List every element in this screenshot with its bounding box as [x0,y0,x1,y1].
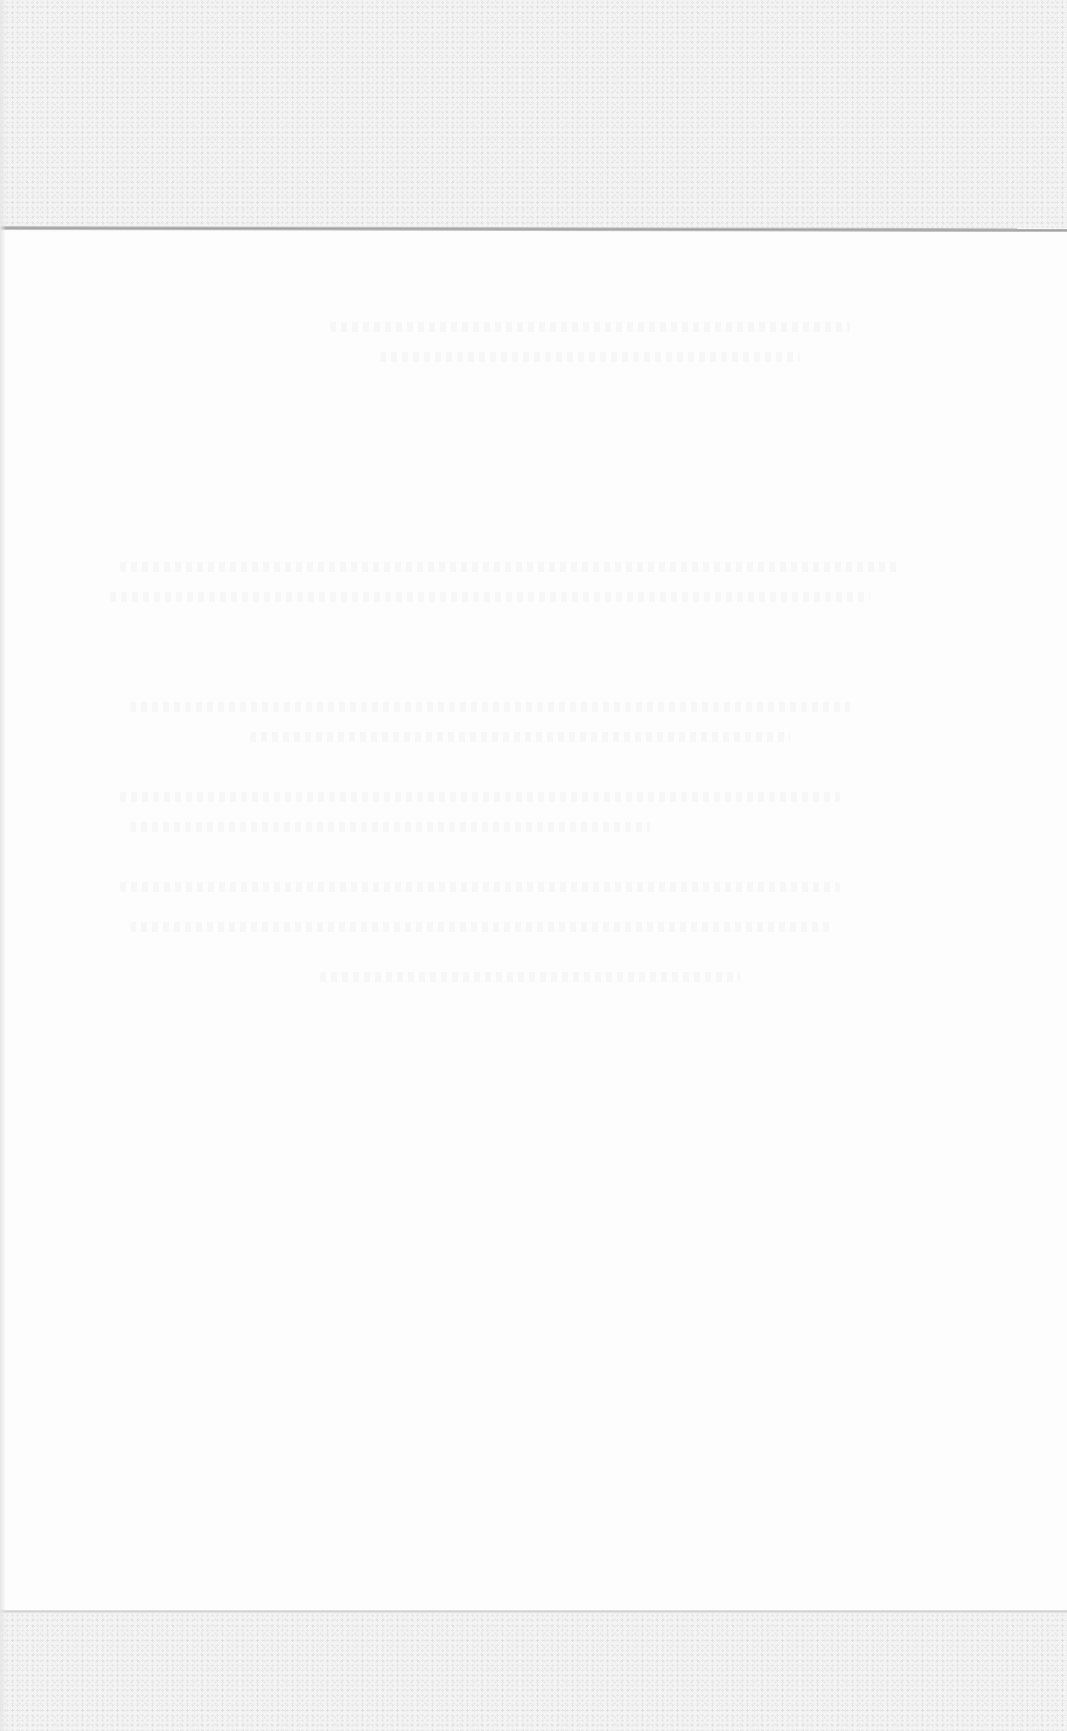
bleed-through-mark [320,972,740,982]
page-body [0,232,1067,1610]
bottom-scan-band [0,1613,1067,1731]
bleed-through-mark [250,732,790,742]
top-scan-band [0,0,1067,228]
bleed-through-mark [130,822,650,832]
bleed-through-mark [380,352,800,362]
bleed-through-mark [110,592,870,602]
bleed-through-mark [130,922,830,932]
bleed-through-mark [130,702,850,712]
bleed-through-mark [120,792,840,802]
scan-left-edge [0,0,6,1731]
bleed-through-mark [330,322,850,332]
bleed-through-mark [120,882,840,892]
bleed-through-mark [120,562,900,572]
